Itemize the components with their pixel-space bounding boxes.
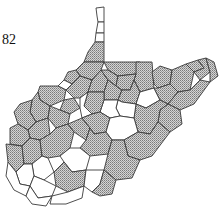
county-ohio — [95, 33, 104, 42]
county-brooke — [96, 22, 104, 33]
county-hancock — [96, 7, 104, 22]
county-layer — [6, 7, 218, 206]
county-marshall — [84, 42, 104, 62]
west-virginia-county-map — [0, 0, 222, 211]
